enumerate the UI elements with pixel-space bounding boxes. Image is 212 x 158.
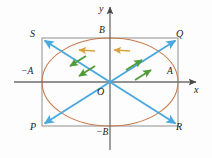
label-corner-Q: Q xyxy=(176,29,183,39)
flow-arrow-orange-left xyxy=(79,50,95,51)
label-tick-neg-B: −B xyxy=(96,128,108,138)
label-tick-neg-A: −A xyxy=(21,67,33,77)
figure-canvas: S Q P R y x O −A A B −B xyxy=(0,0,212,158)
flow-arrow-green-right-upper xyxy=(126,60,142,70)
label-corner-S: S xyxy=(30,29,35,39)
label-x-axis: x xyxy=(194,85,198,95)
label-origin: O xyxy=(97,87,104,97)
diagonal-ray-to-R xyxy=(110,82,176,124)
label-corner-P: P xyxy=(30,122,36,132)
flow-arrow-orange-right xyxy=(114,50,130,51)
label-y-axis: y xyxy=(99,4,103,14)
flow-arrow-green-right-lower xyxy=(135,70,151,80)
label-tick-B: B xyxy=(99,26,105,36)
label-corner-R: R xyxy=(176,122,182,132)
label-tick-A: A xyxy=(167,67,173,77)
